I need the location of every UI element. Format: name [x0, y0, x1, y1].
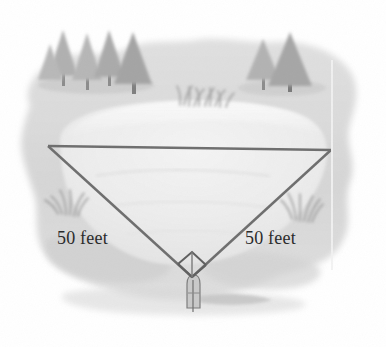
label-right-leg: 50 feet	[245, 228, 296, 249]
label-left-leg: 50 feet	[57, 228, 108, 249]
figure-canvas	[0, 0, 386, 347]
lake-survey-figure: 50 feet 50 feet	[0, 0, 386, 347]
